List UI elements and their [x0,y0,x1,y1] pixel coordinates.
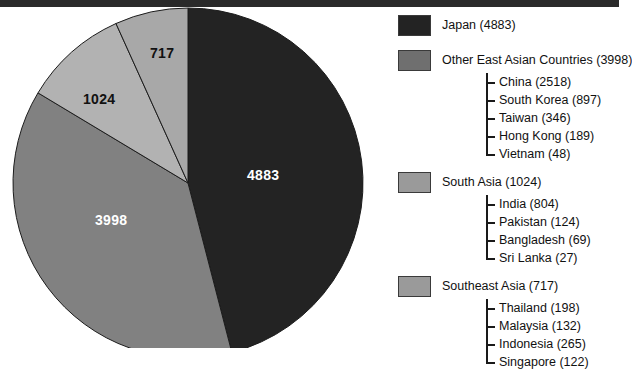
pie-slice-value-other-east-asia: 3998 [95,212,127,228]
legend-swatch-south-asia [398,172,431,193]
legend-group-japan: Japan (4883) [398,14,619,37]
legend-group-other-east-asian: Other East Asian Countries (3998) China … [398,49,619,163]
legend-entry-japan[interactable]: Japan (4883) [398,14,619,37]
legend-sublist-south-asia: India (804) Pakistan (124) Bangladesh (6… [486,195,619,267]
legend-subitem: Indonesia (265) [486,335,619,353]
legend-subitem: South Korea (897) [486,91,619,109]
legend-subitem: Hong Kong (189) [486,127,619,145]
legend-sublist-other-east-asian: China (2518) South Korea (897) Taiwan (3… [486,73,619,163]
legend-group-southeast-asia: Southeast Asia (717) Thailand (198) Mala… [398,275,619,371]
legend-sublist-southeast-asia: Thailand (198) Malaysia (132) Indonesia … [486,299,619,371]
legend-label-south-asia: South Asia (1024) [442,176,541,189]
legend-swatch-other-east-asian [398,50,431,71]
legend-subitem: Taiwan (346) [486,109,619,127]
legend-subitem: Malaysia (132) [486,317,619,335]
legend-label-other-east-asian: Other East Asian Countries (3998) [442,54,632,67]
legend-subitem: Sri Lanka (27) [486,249,619,267]
legend: Japan (4883) Other East Asian Countries … [398,14,619,344]
legend-entry-south-asia[interactable]: South Asia (1024) [398,171,619,194]
legend-label-japan: Japan (4883) [442,19,516,32]
legend-subitem: China (2518) [486,73,619,91]
pie-slice-value-southeast-asia: 717 [150,45,174,61]
pie-chart-area: 4883 3998 1024 717 [0,0,390,348]
pie-chart-svg [0,0,390,348]
legend-subitem: Thailand (198) [486,299,619,317]
pie-slice-value-south-asia: 1024 [83,91,115,107]
legend-swatch-japan [398,15,431,36]
pie-slice-value-japan: 4883 [247,167,279,183]
legend-entry-southeast-asia[interactable]: Southeast Asia (717) [398,275,619,298]
legend-subitem: Singapore (122) [486,353,619,371]
legend-subitem: Vietnam (48) [486,145,619,163]
legend-label-southeast-asia: Southeast Asia (717) [442,280,558,293]
legend-subitem: Bangladesh (69) [486,231,619,249]
legend-group-south-asia: South Asia (1024) India (804) Pakistan (… [398,171,619,267]
legend-subitem: Pakistan (124) [486,213,619,231]
legend-subitem: India (804) [486,195,619,213]
legend-swatch-southeast-asia [398,276,431,297]
legend-spacer [398,39,619,49]
legend-entry-other-east-asian[interactable]: Other East Asian Countries (3998) [398,49,619,72]
